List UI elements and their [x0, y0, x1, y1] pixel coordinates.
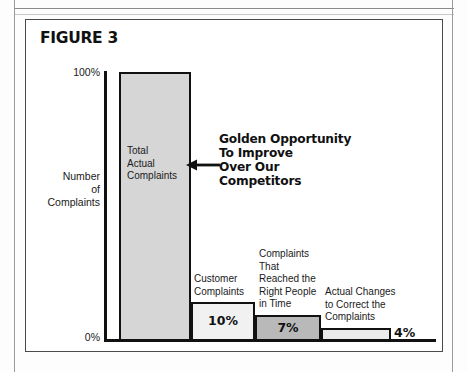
bar-label-total-line-2: Actual [127, 158, 193, 171]
y-axis-title-line-1: Number [26, 170, 100, 183]
category-label-actual-line-3: Complaints [325, 311, 403, 324]
page-edge-rule-right [452, 0, 453, 372]
page-edge-rule-top-secondary [14, 14, 454, 15]
bar-label-total-line-1: Total [127, 145, 193, 158]
page-edge-rule-top [14, 8, 454, 9]
y-tick-label-0: 0% [44, 331, 100, 343]
bar-actual-changes-to-correct [321, 328, 391, 341]
category-label-actual-changes: Actual Changes to Correct the Complaints [325, 286, 403, 324]
category-label-actual-line-2: to Correct the [325, 299, 403, 312]
figure-title: FIGURE 3 [40, 29, 118, 47]
figure-frame: FIGURE 3 100% 0% Number of Complaints To… [25, 19, 443, 352]
category-label-reached-line-4: in Time [259, 298, 329, 311]
y-tick-label-100: 100% [44, 66, 100, 78]
y-axis-line [104, 71, 107, 341]
category-label-reached-line-3: Right People [259, 286, 329, 299]
category-label-reached-line-2: Reached the [259, 273, 329, 286]
category-label-complaints-reached: Complaints That Reached the Right People… [259, 248, 329, 311]
category-label-customer-line-1: Customer [194, 273, 256, 286]
value-label-actual-changes: 4% [394, 325, 436, 340]
callout-line-3: Over Our [219, 160, 364, 174]
category-label-customer-complaints: Customer Complaints [194, 273, 256, 298]
callout-arrow-icon [186, 159, 220, 171]
page-background: FIGURE 3 100% 0% Number of Complaints To… [0, 0, 467, 372]
callout-golden-opportunity: Golden Opportunity To Improve Over Our C… [219, 132, 364, 188]
callout-line-4: Competitors [219, 174, 364, 188]
bar-label-total-actual-complaints: Total Actual Complaints [127, 145, 193, 183]
value-label-customer-complaints: 10% [191, 313, 255, 328]
category-label-actual-line-1: Actual Changes [325, 286, 403, 299]
page-edge-rule-left [14, 0, 15, 372]
y-axis-title: Number of Complaints [26, 170, 100, 209]
bar-label-total-line-3: Complaints [127, 170, 193, 183]
y-axis-title-line-2: of [26, 183, 100, 196]
category-label-reached-line-1: Complaints That [259, 248, 329, 273]
callout-line-1: Golden Opportunity [219, 132, 364, 146]
value-label-complaints-reached: 7% [255, 320, 321, 335]
category-label-customer-line-2: Complaints [194, 286, 256, 299]
y-axis-title-line-3: Complaints [26, 196, 100, 209]
bar-total-actual-complaints [119, 72, 191, 341]
callout-line-2: To Improve [219, 146, 364, 160]
